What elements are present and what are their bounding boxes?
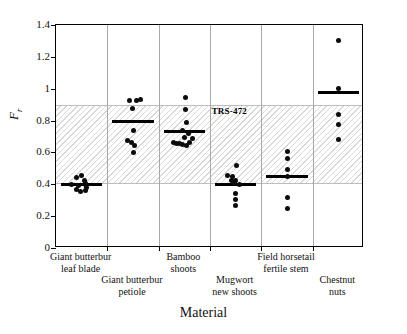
y-axis-tick bbox=[51, 216, 56, 217]
y-axis-tick-label: 1.4 bbox=[36, 18, 50, 30]
y-axis-tick bbox=[51, 89, 56, 90]
data-point bbox=[233, 203, 238, 208]
data-point bbox=[285, 174, 290, 179]
mean-line bbox=[318, 91, 359, 94]
x-axis-category-label: Giant butterbur leaf blade bbox=[31, 251, 131, 274]
x-axis-category-label: Mugwort new shoots bbox=[185, 274, 285, 297]
data-point bbox=[336, 38, 341, 43]
data-point bbox=[138, 97, 143, 102]
y-axis-tick bbox=[51, 121, 56, 122]
data-point bbox=[183, 107, 188, 112]
y-axis-tick bbox=[51, 184, 56, 185]
data-point bbox=[233, 191, 238, 196]
data-point bbox=[237, 182, 242, 187]
data-point bbox=[285, 195, 290, 200]
data-point bbox=[131, 150, 136, 155]
y-axis-tick-label: 1 bbox=[45, 82, 51, 94]
data-point bbox=[336, 112, 341, 117]
y-axis-tick bbox=[51, 57, 56, 58]
y-axis-tick-label: 0.6 bbox=[36, 145, 50, 157]
chart-figure: Fr 00.20.40.60.811.21.4 TRS-472 Material… bbox=[0, 0, 407, 334]
data-point bbox=[127, 98, 132, 103]
data-point bbox=[84, 185, 89, 190]
group-separator bbox=[261, 25, 262, 246]
data-point bbox=[132, 143, 137, 148]
data-point bbox=[285, 156, 290, 161]
mean-line bbox=[112, 120, 153, 123]
y-axis-tick-label: 0.8 bbox=[36, 114, 50, 126]
y-axis-tick-label: 1.2 bbox=[36, 50, 50, 62]
data-point bbox=[69, 182, 74, 187]
y-axis-tick-labels: 00.20.40.60.811.21.4 bbox=[0, 24, 50, 247]
x-axis-category-label: Giant butterbur petiole bbox=[82, 274, 182, 297]
data-point bbox=[233, 197, 238, 202]
x-axis-title: Material bbox=[0, 305, 407, 321]
data-point bbox=[182, 135, 187, 140]
plot-area: TRS-472 bbox=[55, 24, 363, 247]
y-axis-tick bbox=[51, 248, 56, 249]
data-point bbox=[184, 120, 189, 125]
data-point bbox=[183, 95, 188, 100]
data-point bbox=[130, 106, 135, 111]
x-axis-category-label: Bamboo shoots bbox=[133, 251, 233, 274]
data-point bbox=[285, 206, 290, 211]
y-axis-tick-label: 0.4 bbox=[36, 177, 50, 189]
reference-band-label: TRS-472 bbox=[212, 106, 247, 116]
group-separator bbox=[107, 25, 108, 246]
y-axis-tick-label: 0.2 bbox=[36, 209, 50, 221]
reference-band bbox=[56, 105, 362, 185]
data-point bbox=[336, 122, 341, 127]
group-separator bbox=[159, 25, 160, 246]
x-axis-category-label: Chestnut nuts bbox=[287, 274, 387, 297]
group-separator bbox=[313, 25, 314, 246]
group-separator bbox=[210, 25, 211, 246]
y-axis-tick bbox=[51, 152, 56, 153]
x-axis-category-label: Field horsetail fertile stem bbox=[236, 251, 336, 274]
y-axis-tick bbox=[51, 25, 56, 26]
data-point bbox=[285, 149, 290, 154]
data-point bbox=[234, 163, 239, 168]
data-point bbox=[336, 137, 341, 142]
mean-line bbox=[61, 183, 102, 186]
